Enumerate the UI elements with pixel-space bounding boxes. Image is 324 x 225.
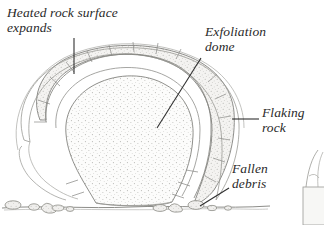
label-exfoliation-dome: Exfoliation dome <box>205 24 266 54</box>
label-flaking-rock: Flaking rock <box>262 105 305 135</box>
label-fallen-debris: Fallen debris <box>232 161 268 191</box>
cropped-side-figure <box>303 150 324 225</box>
exfoliation-dome <box>66 76 193 206</box>
label-heated-rock-surface-expands: Heated rock surface expands <box>7 5 118 35</box>
